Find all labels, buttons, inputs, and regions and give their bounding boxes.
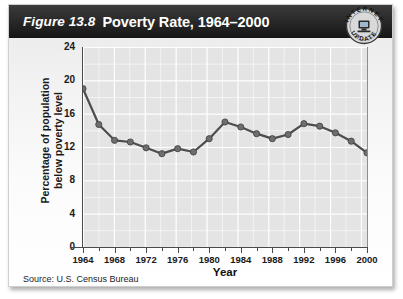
source-note: Source: U.S. Census Bureau <box>23 274 139 284</box>
x-tick-minor <box>130 247 131 251</box>
x-tick-major <box>83 247 84 253</box>
data-point <box>332 130 338 136</box>
x-tick-major <box>367 247 368 253</box>
x-tick-label: 2000 <box>350 254 384 265</box>
x-tick-label: 1996 <box>318 254 352 265</box>
x-tick-minor <box>225 247 226 251</box>
x-tick-major <box>335 247 336 253</box>
x-tick-label: 1964 <box>66 254 100 265</box>
data-point <box>253 131 259 137</box>
data-point <box>238 124 244 130</box>
x-tick-label: 1980 <box>192 254 226 265</box>
data-point-markers <box>83 86 367 157</box>
x-tick-minor <box>193 247 194 251</box>
x-tick-minor <box>320 247 321 251</box>
x-tick-major <box>146 247 147 253</box>
y-tick-label: 8 <box>55 174 75 185</box>
data-point <box>190 149 196 155</box>
x-tick-major <box>209 247 210 253</box>
y-tick-label: 16 <box>55 108 75 119</box>
x-tick-label: 1984 <box>224 254 258 265</box>
x-tick-label: 1988 <box>255 254 289 265</box>
chart-plot-wrapper: Percentage of population below poverty l… <box>9 38 392 286</box>
data-point <box>83 86 86 92</box>
data-point <box>206 136 212 142</box>
data-point <box>348 138 354 144</box>
x-tick-minor <box>288 247 289 251</box>
x-tick-major <box>241 247 242 253</box>
data-point <box>159 151 165 157</box>
data-point <box>364 150 367 156</box>
data-point <box>285 131 291 137</box>
figure-title: Poverty Rate, 1964–2000 <box>102 14 269 30</box>
y-axis-line <box>82 47 83 248</box>
x-tick-label: 1968 <box>98 254 132 265</box>
data-line-svg <box>83 47 367 247</box>
figure-title-bar: Figure 13.8 Poverty Rate, 1964–2000 <box>9 5 392 38</box>
data-point <box>111 137 117 143</box>
x-tick-major <box>304 247 305 253</box>
data-point <box>317 123 323 129</box>
figure-number-label: Figure 13.8 <box>23 14 95 29</box>
computer-icon <box>358 21 371 33</box>
data-point <box>269 136 275 142</box>
x-tick-label: 1972 <box>129 254 163 265</box>
y-tick-label: 4 <box>55 208 75 219</box>
data-point <box>175 146 181 152</box>
x-tick-minor <box>257 247 258 251</box>
x-tick-minor <box>162 247 163 251</box>
x-tick-major <box>272 247 273 253</box>
y-axis-ticks: 04812162024 <box>55 38 81 258</box>
data-point <box>222 119 228 125</box>
data-point <box>301 121 307 127</box>
x-tick-major <box>178 247 179 253</box>
x-tick-major <box>115 247 116 253</box>
data-point <box>143 145 149 151</box>
figure-card: Figure 13.8 Poverty Rate, 1964–2000 INTE… <box>8 4 393 287</box>
x-tick-minor <box>351 247 352 251</box>
data-point <box>127 139 133 145</box>
x-tick-minor <box>99 247 100 251</box>
y-tick-label: 20 <box>55 74 75 85</box>
x-tick-label: 1976 <box>161 254 195 265</box>
x-tick-label: 1992 <box>287 254 321 265</box>
data-point <box>96 121 102 127</box>
y-tick-label: 24 <box>55 41 75 52</box>
plot-area <box>83 47 368 247</box>
y-tick-label: 12 <box>55 141 75 152</box>
